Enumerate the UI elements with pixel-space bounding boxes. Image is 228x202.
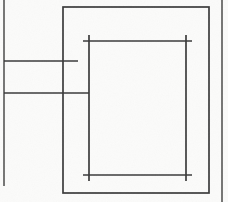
line-drawing <box>0 0 228 202</box>
paper-background <box>0 0 228 202</box>
drawing-canvas <box>0 0 228 202</box>
